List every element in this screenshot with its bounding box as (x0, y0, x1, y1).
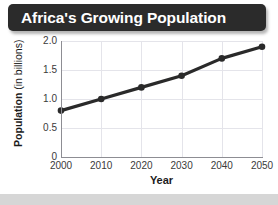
data-point-marker (178, 73, 185, 80)
y-tick-label: 0.5 (29, 123, 57, 133)
y-axis-tick-labels: 00.51.01.52.0 (29, 41, 57, 157)
data-point-marker (219, 55, 226, 62)
y-axis-title: Population (in billions) (13, 28, 24, 158)
x-axis-tick-labels: 200020102020203020402050 (61, 161, 262, 175)
x-tick-label: 2020 (130, 161, 152, 171)
data-point-marker (138, 84, 145, 91)
plot-area (61, 41, 262, 157)
y-axis-line (61, 41, 62, 158)
gridline-vertical (262, 41, 263, 157)
y-tick-label: 2.0 (29, 36, 57, 46)
chart-container: 00.51.01.52.0 200020102020203020402050 P… (0, 33, 278, 188)
y-axis-title-unit: (in billions) (12, 40, 24, 93)
x-tick-label: 2000 (50, 161, 72, 171)
x-tick-label: 2030 (170, 161, 192, 171)
data-point-marker (259, 44, 266, 51)
y-axis-title-main: Population (12, 93, 24, 147)
data-point-marker (98, 96, 105, 103)
x-axis-title: Year (61, 175, 262, 186)
x-tick-label: 2040 (211, 161, 233, 171)
x-tick-label: 2010 (90, 161, 112, 171)
chart-title-banner: Africa's Growing Population (8, 4, 266, 31)
page-title: Africa's Growing Population (8, 10, 226, 26)
data-series (61, 41, 262, 157)
x-axis-line (61, 157, 263, 158)
bottom-band (0, 194, 278, 205)
x-tick-label: 2050 (251, 161, 273, 171)
series-line (61, 47, 262, 111)
y-tick-label: 1.5 (29, 65, 57, 75)
y-tick-label: 1.0 (29, 94, 57, 104)
